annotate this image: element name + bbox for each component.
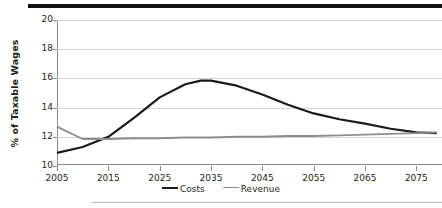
legend-label: Costs — [180, 184, 205, 194]
x-tick-mark — [160, 166, 161, 171]
y-tick-label: 18 — [19, 44, 53, 53]
legend-swatch-icon — [223, 187, 239, 188]
bottom-divider-rule — [92, 202, 442, 203]
y-tick-label: 16 — [19, 73, 53, 82]
legend-label: Revenue — [241, 184, 280, 194]
y-tick-label: 20 — [19, 15, 53, 24]
plot-area: 101214161820 200520152025203520452055206… — [57, 20, 442, 165]
x-tick-mark — [262, 166, 263, 171]
legend-item-costs[interactable]: Costs — [162, 183, 205, 194]
cropped-title-sliver — [28, 0, 442, 2]
x-tick-label: 2075 — [396, 173, 436, 183]
data-series-layer — [57, 20, 442, 166]
y-tick-label: 10 — [19, 161, 53, 170]
x-tick-mark — [416, 166, 417, 171]
x-tick-mark — [365, 166, 366, 171]
x-tick-label: 2065 — [345, 173, 385, 183]
y-tick-label: 12 — [19, 132, 53, 141]
x-tick-label: 2005 — [37, 173, 77, 183]
series-line-costs — [57, 81, 437, 153]
x-tick-mark — [57, 166, 58, 171]
chart-legend: CostsRevenue — [0, 183, 442, 194]
x-tick-label: 2015 — [88, 173, 128, 183]
top-divider-rule — [28, 4, 442, 8]
x-tick-mark — [108, 166, 109, 171]
y-axis-title: % of Taxable Wages — [9, 14, 20, 174]
legend-item-revenue[interactable]: Revenue — [223, 183, 280, 194]
x-tick-label: 2025 — [140, 173, 180, 183]
x-tick-label: 2055 — [294, 173, 334, 183]
y-tick-label: 14 — [19, 103, 53, 112]
x-tick-label: 2035 — [191, 173, 231, 183]
chart-figure: % of Taxable Wages 101214161820 20052015… — [0, 0, 442, 208]
legend-swatch-icon — [162, 187, 178, 189]
x-tick-label: 2045 — [242, 173, 282, 183]
x-tick-mark — [314, 166, 315, 171]
x-tick-mark — [211, 166, 212, 171]
